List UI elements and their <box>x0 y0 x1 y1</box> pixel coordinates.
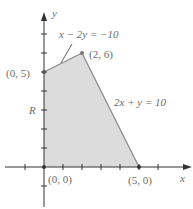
vertex-dot-2-6 <box>80 51 84 55</box>
equation-upper-label: x − 2y = −10 <box>58 28 119 40</box>
y-axis-label: y <box>51 7 57 19</box>
x-axis-arrow-icon <box>183 164 192 170</box>
equation-right-label: 2x + y = 10 <box>114 96 167 108</box>
vertex-label-0-5: (0, 5) <box>6 67 30 80</box>
region-r <box>44 53 139 167</box>
vertex-label-2-6: (2, 6) <box>89 48 113 61</box>
region-label: R <box>28 104 36 116</box>
x-axis-label: x <box>179 172 185 184</box>
vertex-dot-0-5 <box>42 70 46 74</box>
vertex-label-5-0: (5, 0) <box>128 174 152 187</box>
vertex-dot-5-0 <box>137 165 141 169</box>
feasible-region-diagram: y x R (0, 0) (0, 5) (2, 6) (5, 0) x − 2y… <box>0 0 193 209</box>
y-axis-arrow-icon <box>41 12 47 21</box>
vertex-dot-0-0 <box>42 165 46 169</box>
vertex-label-0-0: (0, 0) <box>48 173 72 186</box>
